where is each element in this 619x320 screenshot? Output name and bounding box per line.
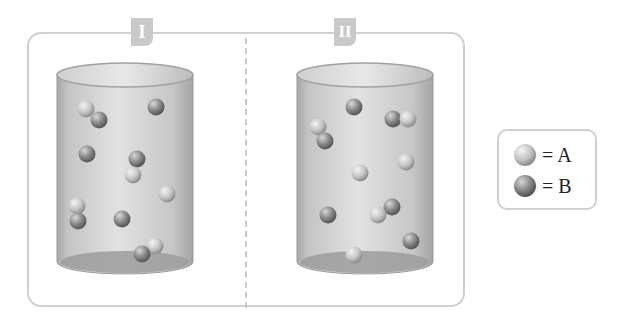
- legend-label-a: = A: [542, 144, 572, 167]
- legend-label-b: = B: [542, 175, 572, 198]
- particle-a-icon: [513, 143, 537, 167]
- particle-a-icon: [400, 111, 417, 128]
- legend: = A = B: [497, 129, 597, 210]
- particle-a-icon: [398, 154, 415, 171]
- particle-b-icon: [513, 174, 537, 198]
- particle-a-icon: [370, 207, 387, 224]
- particle-b-icon: [346, 99, 363, 116]
- legend-item-a: = A: [513, 142, 572, 168]
- particle-a-icon: [346, 247, 363, 264]
- legend-item-b: = B: [513, 173, 572, 199]
- particle-a-icon: [352, 165, 369, 182]
- particle-b-icon: [385, 111, 402, 128]
- particle-b-icon: [317, 133, 334, 150]
- particle-b-icon: [320, 207, 337, 224]
- particle-b-icon: [403, 233, 420, 250]
